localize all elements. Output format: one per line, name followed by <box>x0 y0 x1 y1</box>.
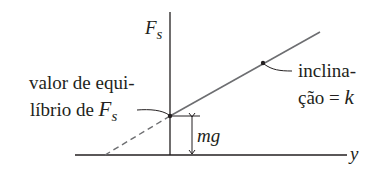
spring-force-diagram: Fs y valor de equi- líbrio de Fs inclina… <box>0 0 388 172</box>
slope-label-line1: inclina- <box>298 60 356 81</box>
equilibrium-leader <box>137 110 169 115</box>
mg-label: mg <box>197 125 220 146</box>
equilibrium-label-line2: líbrio de Fs <box>30 97 117 124</box>
y-axis-label: Fs <box>144 17 163 42</box>
slope-leader <box>264 64 292 71</box>
equilibrium-label-line1: valor de equi- <box>29 72 135 93</box>
x-axis-label: y <box>348 143 359 164</box>
slope-label-line2: ção = k <box>298 85 355 109</box>
